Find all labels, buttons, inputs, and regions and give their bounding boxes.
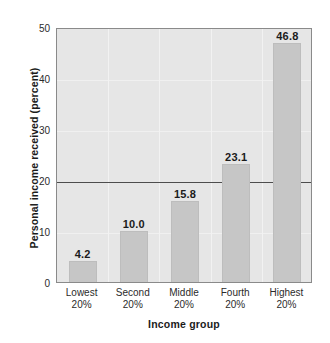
plot-area: 4.210.015.823.146.8 — [56, 28, 312, 283]
bar-chart-figure: Personal income received (percent) 01020… — [0, 0, 330, 343]
bar-value-label: 4.2 — [53, 248, 113, 260]
y-tick-label-10: 10 — [4, 227, 50, 238]
bar — [69, 261, 97, 282]
y-tick-label-40: 40 — [4, 74, 50, 85]
x-tick-label-4: Highest20% — [256, 287, 316, 310]
y-tick-label-20: 20 — [4, 176, 50, 187]
x-tick-label-line: Highest — [256, 287, 316, 299]
y-tick-label-50: 50 — [4, 23, 50, 34]
bar-value-label: 46.8 — [257, 30, 317, 42]
bar-value-label: 23.1 — [206, 151, 266, 163]
bar — [120, 231, 148, 282]
x-axis-title: Income group — [56, 318, 312, 330]
bar — [273, 43, 301, 282]
bar — [171, 201, 199, 282]
bar — [222, 164, 250, 282]
x-tick-label-line: 20% — [256, 299, 316, 311]
y-tick-label-30: 30 — [4, 125, 50, 136]
gridline-v-1 — [108, 29, 109, 282]
gridline-v-2 — [159, 29, 160, 282]
y-axis-tick-labels: 01020304050 — [0, 28, 50, 283]
y-tick-label-0: 0 — [4, 278, 50, 289]
bar-value-label: 15.8 — [155, 188, 215, 200]
bar-value-label: 10.0 — [104, 218, 164, 230]
x-axis-tick-labels: Lowest20%Second20%Middle20%Fourth20%High… — [56, 287, 312, 317]
